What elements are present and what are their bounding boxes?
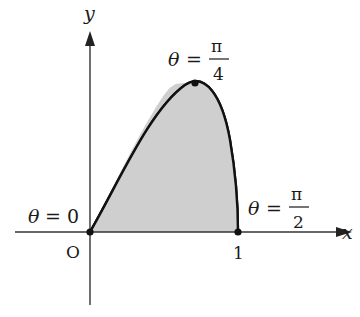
- label-peak-theta: θ: [168, 48, 180, 70]
- label-end-theta: θ: [248, 197, 260, 219]
- label-peak-eq: =: [186, 48, 202, 70]
- point-peak: [191, 79, 198, 86]
- label-peak-num: π: [211, 36, 222, 56]
- label-start-value: 0: [67, 205, 79, 227]
- point-origin: [86, 228, 93, 235]
- label-peak-den: 4: [213, 64, 224, 84]
- label-start-eq: =: [45, 205, 61, 227]
- parametric-curve-diagram: y x O 1 θ = 0 θ = π 4 θ = π 2: [0, 0, 360, 317]
- x-axis-label: x: [342, 221, 353, 243]
- point-end: [234, 228, 241, 235]
- x-tick-label: 1: [233, 243, 244, 263]
- label-end-eq: =: [266, 197, 282, 219]
- label-end-den: 2: [293, 212, 304, 232]
- label-end-num: π: [291, 184, 302, 204]
- y-axis-label: y: [83, 2, 95, 24]
- origin-label: O: [66, 242, 80, 262]
- y-axis-arrow-icon: [85, 31, 95, 46]
- label-start-theta: θ: [28, 205, 40, 227]
